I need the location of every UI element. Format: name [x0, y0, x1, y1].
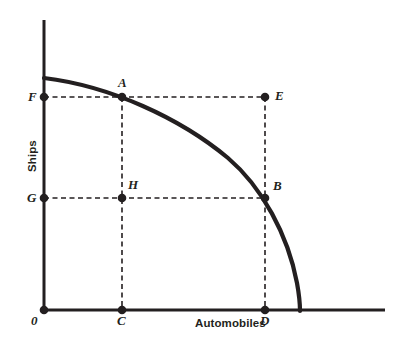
ppf-figure: 0 F G A H C E B D Ships Automobiles: [0, 0, 405, 344]
point-marker-e: [261, 93, 270, 102]
point-marker-g: [40, 194, 49, 203]
point-label-e: E: [275, 89, 284, 102]
point-label-a: A: [118, 76, 127, 89]
point-label-g: G: [27, 191, 37, 204]
point-label-o: 0: [31, 314, 38, 327]
ppf-curve: [44, 78, 300, 311]
ppf-diagram-canvas: [0, 0, 405, 344]
point-marker-a: [118, 93, 127, 102]
point-marker-b: [261, 194, 270, 203]
point-label-b: B: [273, 179, 282, 192]
point-marker-f: [40, 93, 49, 102]
point-marker-h: [118, 194, 127, 203]
point-label-h: H: [128, 178, 138, 191]
point-marker-o: [40, 306, 49, 315]
y-axis-title: Ships: [27, 140, 39, 172]
x-axis-title: Automobiles: [195, 318, 266, 330]
point-label-c: C: [117, 314, 126, 327]
point-label-f: F: [28, 90, 37, 103]
